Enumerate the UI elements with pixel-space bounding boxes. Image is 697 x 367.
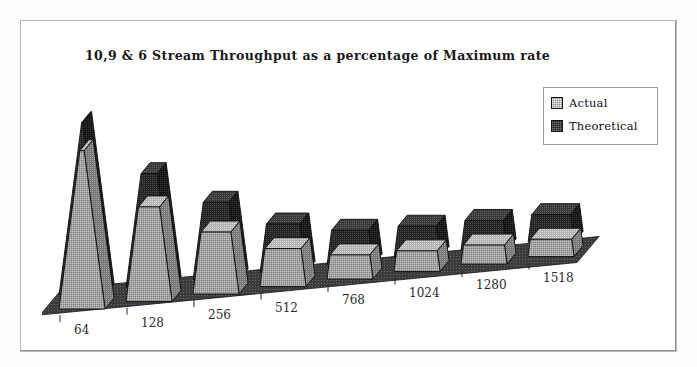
chart-3d-scene	[42, 61, 678, 351]
x-tick-64: 64	[74, 323, 89, 337]
chart-frame: 10,9 & 6 Stream Throughput as a percenta…	[20, 20, 677, 352]
x-tick-128: 128	[141, 316, 164, 330]
x-tick-512: 512	[275, 301, 298, 315]
x-tick-768: 768	[342, 293, 365, 307]
screenshot-root: 10,9 & 6 Stream Throughput as a percenta…	[0, 0, 697, 367]
x-tick-256: 256	[208, 308, 231, 322]
x-tick-1518: 1518	[543, 271, 574, 285]
x-tick-1024: 1024	[409, 286, 440, 300]
plot-area: 64128256512768102412801518	[42, 61, 678, 351]
x-tick-1280: 1280	[476, 278, 507, 292]
